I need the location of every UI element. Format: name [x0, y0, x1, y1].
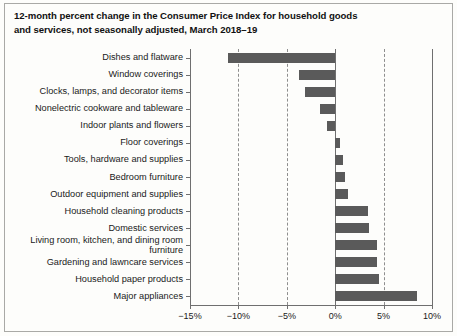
bar	[228, 53, 335, 63]
x-tick--15	[190, 305, 191, 309]
chart-title-line-1: 12-month percent change in the Consumer …	[14, 9, 434, 23]
category-label: Tools, hardware and supplies	[64, 154, 183, 165]
x-axis-line	[190, 305, 432, 306]
y-tick	[186, 160, 190, 161]
category-label: Nonelectric cookware and tableware	[35, 103, 183, 114]
category-label: Domestic services	[108, 223, 183, 234]
gridline--10	[238, 49, 239, 305]
bar	[335, 240, 377, 250]
plot-area: −15%−10%−5%0%5%10% Dishes and flatwareWi…	[190, 49, 432, 305]
y-tick	[186, 92, 190, 93]
gridline-10	[432, 49, 433, 305]
bar	[299, 70, 335, 80]
x-tick-10	[432, 305, 433, 309]
category-label: Clocks, lamps, and decorator items	[40, 86, 183, 97]
y-tick	[186, 262, 190, 263]
gridline--15	[190, 49, 191, 305]
bar	[335, 138, 340, 148]
y-tick	[186, 194, 190, 195]
x-tick-label: −15%	[178, 311, 201, 321]
y-tick	[186, 211, 190, 212]
y-tick	[186, 75, 190, 76]
x-tick-5	[384, 305, 385, 309]
x-tick-0	[335, 305, 336, 309]
chart-title: 12-month percent change in the Consumer …	[14, 9, 434, 36]
category-label: Household cleaning products	[65, 206, 184, 217]
y-tick	[186, 143, 190, 144]
x-tick-label: 5%	[377, 311, 390, 321]
category-label: Dishes and flatware	[102, 52, 183, 63]
gridline-5	[384, 49, 385, 305]
bar	[335, 206, 368, 216]
category-label: Indoor plants and flowers	[80, 120, 183, 131]
bar	[335, 223, 369, 233]
x-tick-label: 10%	[423, 311, 441, 321]
chart-title-line-2: and services, not seasonally adjusted, M…	[14, 23, 434, 37]
bar	[335, 291, 417, 301]
bar	[335, 155, 343, 165]
bar	[320, 104, 335, 114]
y-tick	[186, 228, 190, 229]
gridline--5	[287, 49, 288, 305]
category-label: Bedroom furniture	[109, 172, 183, 183]
y-tick	[186, 296, 190, 297]
category-label: Window coverings	[108, 69, 183, 80]
bar	[335, 274, 379, 284]
y-tick	[186, 177, 190, 178]
y-tick	[186, 126, 190, 127]
x-tick--10	[238, 305, 239, 309]
category-label: Living room, kitchen, and dining room fu…	[23, 235, 183, 256]
bar	[335, 257, 377, 267]
y-tick	[186, 58, 190, 59]
category-label: Household paper products	[75, 274, 183, 285]
category-label: Gardening and lawncare services	[47, 257, 183, 268]
y-tick	[186, 279, 190, 280]
y-tick	[186, 109, 190, 110]
bar	[335, 189, 348, 199]
bar	[327, 121, 335, 131]
bar	[335, 172, 345, 182]
category-label: Outdoor equipment and supplies	[50, 189, 183, 200]
y-tick	[186, 245, 190, 246]
x-tick-label: −5%	[278, 311, 296, 321]
chart-figure: 12-month percent change in the Consumer …	[0, 0, 457, 336]
x-tick--5	[287, 305, 288, 309]
x-tick-label: −10%	[227, 311, 250, 321]
category-label: Floor coverings	[120, 137, 183, 148]
category-label: Major appliances	[114, 291, 183, 302]
x-tick-label: 0%	[329, 311, 342, 321]
bar	[305, 87, 335, 97]
